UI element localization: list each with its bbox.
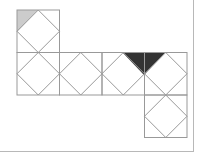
cell-square	[145, 95, 188, 138]
cell-square	[60, 53, 103, 96]
net-cell	[60, 53, 103, 96]
cell-diamond	[60, 53, 103, 96]
net-cell	[145, 95, 188, 138]
cube-net-diagram	[0, 0, 206, 153]
cell-square	[17, 53, 60, 96]
cell-diamond	[145, 95, 188, 138]
cell-diamond	[17, 53, 60, 96]
net-cell	[17, 53, 60, 96]
